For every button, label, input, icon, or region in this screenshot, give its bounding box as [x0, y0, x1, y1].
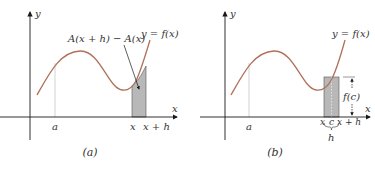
x-axis-label: x [365, 103, 371, 114]
curve-label: y = f(x) [331, 28, 370, 39]
x-axis-label: x [172, 103, 178, 114]
area-difference-label: A(x + h) − A(x) [67, 33, 145, 44]
brace-label-h: h [328, 132, 334, 143]
panel-a: y x A(x + h) − A(x) y = f(x) a x x + h (… [0, 8, 179, 159]
tick-label-a: a [246, 121, 252, 132]
tick-label-x-plus-h: x + h [337, 117, 361, 127]
tick-label-x: x [320, 117, 325, 127]
area-pointer-arrow [124, 45, 139, 89]
y-axis-label: y [34, 8, 41, 19]
curve-label: y = f(x) [140, 28, 179, 39]
panel-b: y x y = f(x) f(c) a x c x + h h (b) [200, 8, 371, 159]
caption-b: (b) [267, 146, 283, 159]
tick-label-c: c [329, 117, 334, 127]
caption-a: (a) [82, 146, 97, 159]
tick-label-x: x [130, 121, 136, 132]
height-label-fc: f(c) [342, 91, 360, 102]
tick-label-a: a [52, 121, 58, 132]
tick-label-x-plus-h: x + h [143, 121, 170, 132]
y-axis-label: y [229, 8, 236, 19]
diagram-canvas: y x A(x + h) − A(x) y = f(x) a x x + h (… [0, 0, 375, 170]
